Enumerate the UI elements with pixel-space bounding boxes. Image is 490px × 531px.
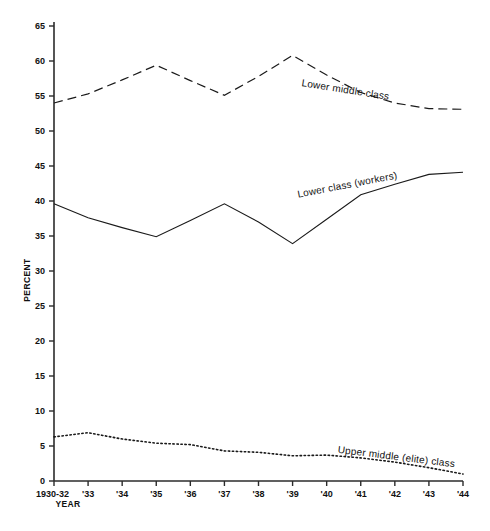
y-tick-label: 40 <box>35 196 45 206</box>
y-tick-label: 35 <box>35 231 45 241</box>
series-paths <box>54 55 463 474</box>
y-tick-label: 65 <box>35 21 45 31</box>
x-tick-label: '37 <box>218 489 230 499</box>
x-tick-label: '41 <box>355 489 367 499</box>
x-tick-label: '42 <box>389 489 401 499</box>
x-tick-label: '33 <box>82 489 94 499</box>
y-tick-label: 15 <box>35 371 45 381</box>
x-tick-label: '34 <box>116 489 128 499</box>
x-tick-label: '40 <box>321 489 333 499</box>
series-label-lower-middle-class: Lower middle class <box>301 77 390 102</box>
y-tick-label: 60 <box>35 56 45 66</box>
series-line-1 <box>54 172 463 243</box>
x-tick-label: '36 <box>184 489 196 499</box>
y-tick-label: 30 <box>35 266 45 276</box>
series-label-upper-middle-class: Upper middle (elite) class <box>337 444 455 469</box>
x-tick-label: 1930-32 <box>36 489 69 499</box>
y-axis-title: PERCENT <box>22 258 32 302</box>
series-line-0 <box>54 55 463 109</box>
x-axis-ticks: 1930-32'33'34'35'36'37'38'39'40'41'42'43… <box>36 481 469 499</box>
series-label-lower-class: Lower class (workers) <box>296 169 398 199</box>
x-tick-label: '35 <box>150 489 162 499</box>
x-axis-title: YEAR <box>55 499 80 509</box>
chart-canvas: 05101520253035404550556065 1930-32'33'34… <box>0 0 490 531</box>
y-tick-label: 45 <box>35 161 45 171</box>
x-tick-label: '38 <box>252 489 264 499</box>
x-tick-label: '44 <box>457 489 469 499</box>
y-tick-label: 10 <box>35 406 45 416</box>
y-tick-label: 50 <box>35 126 45 136</box>
y-tick-label: 0 <box>40 476 45 486</box>
x-tick-label: '39 <box>287 489 299 499</box>
y-tick-label: 5 <box>40 441 45 451</box>
y-tick-label: 25 <box>35 301 45 311</box>
line-chart: 05101520253035404550556065 1930-32'33'34… <box>0 0 490 531</box>
x-tick-label: '43 <box>423 489 435 499</box>
y-axis-ticks: 05101520253035404550556065 <box>35 21 54 486</box>
y-tick-label: 20 <box>35 336 45 346</box>
y-tick-label: 55 <box>35 91 45 101</box>
